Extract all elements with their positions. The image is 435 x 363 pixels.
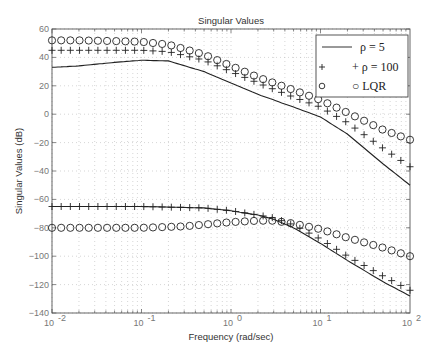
plus-marker: [397, 282, 404, 289]
plus-marker: [388, 151, 395, 158]
y-axis-label: Singular Values (dB): [13, 128, 24, 214]
circle-marker: [58, 37, 65, 44]
plus-marker: [287, 93, 294, 100]
circle-marker: [232, 218, 239, 225]
y-tick-label: −140: [29, 308, 49, 318]
circle-marker: [342, 108, 349, 115]
circle-marker: [342, 234, 349, 241]
plus-marker: [49, 47, 56, 54]
x-tick-label: 10: [312, 318, 322, 328]
plus-marker: [361, 262, 368, 269]
plus-marker: [58, 203, 65, 210]
circle-marker: [333, 231, 340, 238]
plus-marker: [94, 47, 101, 54]
plus-marker: [85, 47, 92, 54]
plus-marker: [67, 203, 74, 210]
circle-marker: [388, 129, 395, 136]
plus-marker: [205, 205, 212, 212]
plus-marker: [296, 96, 303, 103]
circle-marker: [379, 244, 386, 251]
y-tick-label: 20: [39, 81, 49, 91]
plus-marker: [407, 287, 414, 294]
circle-marker: [305, 92, 312, 99]
circle-marker: [122, 38, 129, 45]
circle-marker: [397, 250, 404, 257]
plus-marker: [85, 203, 92, 210]
circle-marker: [361, 239, 368, 246]
y-tick-label: 0: [44, 109, 49, 119]
y-tick-label: −120: [29, 280, 49, 290]
y-tick-label: −100: [29, 251, 49, 261]
y-tick-label: −40: [34, 166, 49, 176]
circle-marker: [159, 224, 166, 231]
circle-marker: [76, 37, 83, 44]
plus-marker: [94, 203, 101, 210]
plus-marker: [324, 108, 331, 115]
plus-marker: [104, 47, 111, 54]
plus-marker: [232, 208, 239, 215]
x-axis-label: Frequency (rad/sec): [188, 331, 273, 342]
circle-marker: [140, 224, 147, 231]
circle-marker: [195, 221, 202, 228]
plus-marker: [351, 257, 358, 264]
plus-marker: [76, 47, 83, 54]
circle-marker: [269, 79, 276, 86]
circle-marker: [204, 221, 211, 228]
circle-marker: [186, 222, 193, 229]
legend-entry-rho5: ρ = 5: [360, 40, 385, 54]
plus-marker: [370, 267, 377, 274]
y-tick-label: 40: [39, 52, 49, 62]
circle-marker: [333, 104, 340, 111]
plus-marker: [250, 211, 257, 218]
plus-marker: [58, 47, 65, 54]
circle-marker: [149, 39, 156, 46]
circle-marker: [241, 218, 248, 225]
plus-marker: [159, 203, 166, 210]
y-tick-label: −60: [34, 194, 49, 204]
plus-marker: [140, 47, 147, 54]
circle-marker: [67, 37, 74, 44]
circle-marker: [140, 38, 147, 45]
x-tick-label: 10: [223, 318, 233, 328]
circle-marker: [324, 228, 331, 235]
singular-values-chart: 10-210-11001011026040200−20−40−60−80−100…: [0, 0, 435, 363]
svg-text:-1: -1: [148, 313, 156, 323]
plus-marker: [49, 203, 56, 210]
svg-text:1: 1: [327, 313, 332, 323]
plus-marker: [67, 47, 74, 54]
circle-marker: [388, 247, 395, 254]
plus-marker: [195, 204, 202, 211]
y-tick-label: 60: [39, 24, 49, 34]
plus-marker: [370, 138, 377, 145]
plus-marker: [342, 118, 349, 125]
plus-marker: [168, 204, 175, 211]
circle-marker: [287, 85, 294, 92]
circle-marker: [250, 217, 257, 224]
circle-marker: [370, 241, 377, 248]
plus-marker: [122, 47, 129, 54]
circle-marker: [58, 224, 65, 231]
plus-marker: [214, 206, 221, 213]
circle-marker: [168, 42, 175, 49]
circle-marker: [351, 113, 358, 120]
plus-marker: [223, 207, 230, 214]
series-line: [52, 207, 410, 297]
plus-marker: [159, 48, 166, 55]
chart-title: Singular Values: [198, 15, 264, 26]
circle-marker: [351, 236, 358, 243]
circle-marker: [159, 40, 166, 47]
circle-marker: [168, 223, 175, 230]
circle-marker: [177, 223, 184, 230]
y-tick-label: −20: [34, 138, 49, 148]
circle-marker: [177, 44, 184, 51]
x-tick-label: 10: [402, 318, 412, 328]
plus-marker: [113, 47, 120, 54]
plus-marker: [241, 209, 248, 216]
circle-marker: [223, 219, 230, 226]
circle-marker: [370, 122, 377, 129]
plus-marker: [379, 272, 386, 279]
plus-marker: [351, 125, 358, 132]
circle-marker: [379, 126, 386, 133]
plus-marker: [76, 203, 83, 210]
svg-text:-2: -2: [58, 313, 66, 323]
